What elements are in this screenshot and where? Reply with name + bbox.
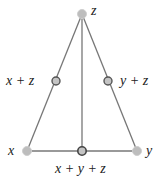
node-x-plus-y-plus-z xyxy=(78,147,86,155)
label-x-plus-z: x + z xyxy=(6,74,34,88)
node-x xyxy=(23,147,32,156)
node-x-plus-z xyxy=(52,77,60,85)
label-x: x xyxy=(8,144,14,158)
lattice-diagram xyxy=(0,0,159,181)
node-y xyxy=(133,147,142,156)
label-z: z xyxy=(91,4,96,18)
label-y-plus-z: y + z xyxy=(120,74,148,88)
label-x-plus-y-plus-z: x + y + z xyxy=(55,162,106,176)
node-z xyxy=(78,10,87,19)
node-y-plus-z xyxy=(104,77,112,85)
label-y: y xyxy=(146,144,152,158)
